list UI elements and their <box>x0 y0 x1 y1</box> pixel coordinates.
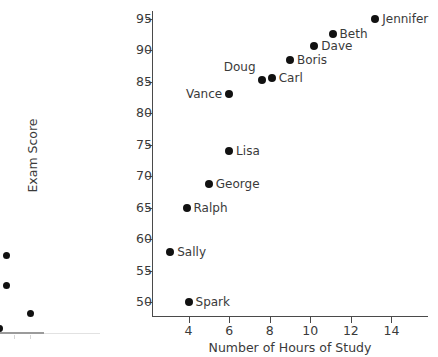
scatter-point[interactable] <box>268 74 276 82</box>
x-axis-tick-label: 4 <box>174 325 204 338</box>
x-axis-tick-label: 6 <box>214 325 244 338</box>
scatter-point-label-text: Doug <box>224 61 256 73</box>
x-axis-title: Number of Hours of Study <box>152 340 428 355</box>
scatter-point[interactable] <box>329 30 337 38</box>
scatter-point[interactable] <box>286 56 294 64</box>
x-axis-tick-label: 12 <box>336 325 366 338</box>
scatter-point-label: Spark <box>196 296 230 308</box>
scatter-point[interactable] <box>371 15 379 23</box>
scatter-point-label: Ralph <box>194 202 228 214</box>
y-axis-tick-label: 50 <box>128 296 152 309</box>
y-axis-tick-label: 95 <box>128 13 152 26</box>
y-axis-tick-label: 70 <box>128 170 152 183</box>
y-axis-tick-label: 90 <box>128 44 152 57</box>
scatter-point-label: Sally <box>177 246 206 258</box>
scatter-point[interactable] <box>183 204 191 212</box>
scatter-chart: 50556065707580859095 468101214 SparkSall… <box>0 0 438 357</box>
y-axis-title: Exam Score <box>25 96 40 216</box>
y-axis-tick-label: 80 <box>128 107 152 120</box>
y-axis-tick-label: 75 <box>128 139 152 152</box>
scatter-point-label: Jennifer <box>382 13 428 25</box>
scatter-point[interactable] <box>205 180 213 188</box>
scatter-point[interactable] <box>258 76 266 84</box>
scatter-point[interactable] <box>166 248 174 256</box>
x-axis-line <box>152 316 428 317</box>
scatter-point-label: George <box>216 178 260 190</box>
scatter-point[interactable] <box>185 298 193 306</box>
scatter-point-label: Carl <box>279 72 303 84</box>
scatter-point[interactable] <box>225 90 233 98</box>
y-axis-line <box>152 11 153 317</box>
x-axis-tick-label: 10 <box>295 325 325 338</box>
scatter-point[interactable] <box>310 42 318 50</box>
scatter-point-label: Lisa <box>236 145 260 157</box>
scatter-point-label-text: Vance <box>186 88 222 100</box>
scatter-point-label: Dave <box>321 40 352 52</box>
y-axis-tick-label: 60 <box>128 233 152 246</box>
y-axis-tick-label: 55 <box>128 265 152 278</box>
x-axis-tick-label: 14 <box>376 325 406 338</box>
y-axis-tick-label: 85 <box>128 76 152 89</box>
y-axis-tick-label: 65 <box>128 202 152 215</box>
scatter-point-label: Boris <box>297 54 327 66</box>
scatter-point[interactable] <box>225 147 233 155</box>
x-axis-tick-label: 8 <box>255 325 285 338</box>
scatter-point-label: Beth <box>340 28 368 40</box>
